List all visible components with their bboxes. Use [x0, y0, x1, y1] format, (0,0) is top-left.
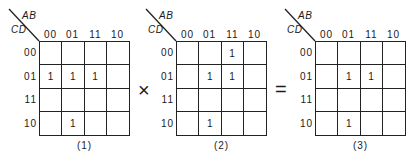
cell: [361, 112, 383, 135]
cell: 1: [361, 65, 383, 88]
cell: 1: [222, 65, 244, 88]
col-header: 01: [198, 29, 221, 40]
col-header: 00: [315, 29, 338, 40]
cell: [244, 89, 266, 112]
row-header: 11: [301, 88, 315, 111]
col-header: 01: [61, 29, 84, 40]
cell: [222, 112, 244, 135]
row-headers: 00 01 11 10: [285, 41, 315, 136]
cell: [62, 89, 84, 112]
cell: [361, 42, 383, 65]
row-header: 01: [300, 65, 315, 88]
col-header: 10: [382, 29, 405, 40]
cell: [199, 42, 221, 65]
cell: [383, 89, 405, 112]
column-headers: 00 01 11 10: [39, 29, 130, 41]
cell: 1: [222, 42, 244, 65]
cell: [244, 42, 266, 65]
cell: 1: [40, 65, 62, 88]
col-header: 10: [106, 29, 129, 40]
cell: [40, 89, 62, 112]
column-headers: 00 01 11 10: [176, 29, 267, 41]
cell: [316, 89, 338, 112]
row-header: 10: [300, 112, 315, 135]
cell: [107, 89, 129, 112]
row-variable-label: CD: [287, 24, 302, 35]
col-header: 01: [337, 29, 360, 40]
kmap-grid: 1 1 1 1: [176, 41, 267, 136]
cell: [177, 42, 199, 65]
cell: 1: [338, 112, 360, 135]
col-header: 00: [39, 29, 62, 40]
cell: [177, 65, 199, 88]
cell: [316, 65, 338, 88]
cell: [316, 112, 338, 135]
karnaugh-map-2: AB CD 00 01 11 10 00 01 11 10 1 1 1 1 (2…: [137, 0, 277, 161]
kmap-grid: 1 1 1: [315, 41, 406, 136]
cell: [85, 42, 107, 65]
cell: [361, 89, 383, 112]
cell: [383, 65, 405, 88]
column-headers: 00 01 11 10: [315, 29, 406, 41]
row-headers: 00 01 11 10: [146, 41, 176, 136]
cell: [40, 42, 62, 65]
cell: [244, 65, 266, 88]
map-caption: (3): [315, 140, 406, 151]
cell: [383, 112, 405, 135]
cell: [107, 42, 129, 65]
row-variable-label: CD: [11, 24, 26, 35]
col-header: 10: [243, 29, 266, 40]
row-header: 00: [24, 41, 39, 64]
row-header: 10: [161, 112, 176, 135]
row-header: 01: [161, 65, 176, 88]
cell: [177, 112, 199, 135]
cell: [107, 112, 129, 135]
row-header: 10: [24, 112, 39, 135]
row-header: 00: [300, 41, 315, 64]
karnaugh-map-3: AB CD 00 01 11 10 00 01 11 10 1 1 1 (3): [276, 0, 415, 161]
row-header: 11: [162, 88, 176, 111]
col-header: 11: [84, 29, 107, 40]
col-header: 00: [176, 29, 199, 40]
cell: [316, 42, 338, 65]
cell: [62, 42, 84, 65]
row-header: 11: [25, 88, 39, 111]
cell: [85, 112, 107, 135]
cell: 1: [338, 65, 360, 88]
cell: [177, 89, 199, 112]
cell: [85, 89, 107, 112]
cell: [222, 89, 244, 112]
cell: [107, 65, 129, 88]
kmap-grid: 1 1 1 1: [39, 41, 130, 136]
row-header: 00: [161, 41, 176, 64]
col-variable-label: AB: [159, 10, 173, 21]
cell: [40, 112, 62, 135]
map-caption: (2): [176, 140, 267, 151]
cell: [244, 112, 266, 135]
row-headers: 00 01 11 10: [9, 41, 39, 136]
row-variable-label: CD: [148, 24, 163, 35]
col-header: 11: [360, 29, 383, 40]
col-variable-label: AB: [298, 10, 312, 21]
cell: 1: [62, 65, 84, 88]
cell: 1: [85, 65, 107, 88]
col-header: 11: [221, 29, 244, 40]
cell: 1: [199, 65, 221, 88]
row-header: 01: [24, 65, 39, 88]
cell: [383, 42, 405, 65]
cell: [338, 89, 360, 112]
cell: 1: [199, 112, 221, 135]
cell: [199, 89, 221, 112]
map-caption: (1): [39, 140, 130, 151]
karnaugh-map-1: AB CD 00 01 11 10 00 01 11 10 1 1 1 1 (1…: [0, 0, 140, 161]
cell: 1: [62, 112, 84, 135]
cell: [338, 42, 360, 65]
col-variable-label: AB: [22, 10, 36, 21]
